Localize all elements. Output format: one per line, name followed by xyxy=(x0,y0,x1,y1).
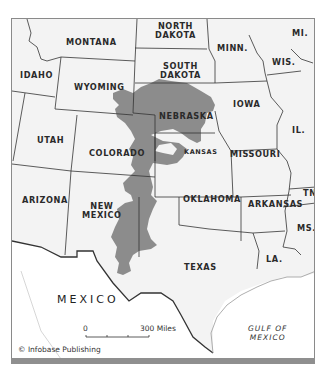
label-nebraska: NEBRASKA xyxy=(159,112,214,121)
label-colorado: COLORADO xyxy=(89,149,145,158)
label-arkansas: ARKANSAS xyxy=(248,200,303,209)
label-utah: UTAH xyxy=(37,136,64,145)
label-kansas: KANSAS xyxy=(184,148,218,157)
label-minnesota: MINN. xyxy=(217,44,248,53)
label-arizona: ARIZONA xyxy=(22,196,68,205)
label-south-dakota: SOUTH DAKOTA xyxy=(160,62,201,80)
label-mississippi: MS. xyxy=(297,224,315,233)
label-missouri: MISSOURI xyxy=(230,150,280,159)
gulf-area xyxy=(213,273,315,364)
label-mexico: MEXICO xyxy=(57,295,119,304)
map-bottom-bar xyxy=(11,358,315,364)
label-tennessee: TN xyxy=(303,189,315,198)
label-gulf-of-mexico: GULF OF MEXICO xyxy=(248,324,287,342)
label-louisiana: LA. xyxy=(266,255,283,264)
label-illinois: IL. xyxy=(292,126,305,135)
scale-start-label: 0 xyxy=(83,324,88,333)
aquifer-region xyxy=(111,79,215,275)
label-michigan: MI. xyxy=(292,29,308,38)
scale-end-label: 300 Miles xyxy=(140,324,176,333)
label-north-dakota: NORTH DAKOTA xyxy=(155,22,196,40)
label-texas: TEXAS xyxy=(184,263,217,272)
label-wisconsin: WIS. xyxy=(272,58,295,67)
label-new-mexico: NEW MEXICO xyxy=(82,202,122,220)
label-oklahoma: OKLAHOMA xyxy=(183,195,241,204)
label-wyoming: WYOMING xyxy=(74,83,125,92)
label-iowa: IOWA xyxy=(233,100,260,109)
label-montana: MONTANA xyxy=(66,38,117,47)
label-idaho: IDAHO xyxy=(20,71,53,80)
publisher-credit: © Infobase Publishing xyxy=(18,345,101,354)
map-frame: MONTANA NORTH DAKOTA MINN. MI. IDAHO WYO… xyxy=(11,18,315,364)
